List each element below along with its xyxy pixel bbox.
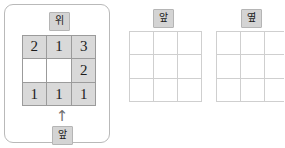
grid-cell[interactable] <box>46 58 72 83</box>
front-view-grid <box>129 31 201 102</box>
grid-cell[interactable] <box>129 78 154 103</box>
grid-cell[interactable] <box>129 54 154 79</box>
label-side-holder: 옆 <box>236 7 266 28</box>
top-view-grid: 2 1 3 2 1 1 1 <box>22 35 96 106</box>
grid-cell[interactable] <box>177 78 202 103</box>
label-side: 옆 <box>241 9 262 28</box>
grid-cell[interactable]: 1 <box>46 35 72 60</box>
grid-cell[interactable] <box>22 58 48 83</box>
grid-cell[interactable] <box>216 31 241 56</box>
grid-cell[interactable] <box>177 54 202 79</box>
label-front: 앞 <box>153 9 174 28</box>
grid-cell[interactable] <box>240 54 265 79</box>
top-view-card: 위 2 1 3 2 1 1 1 ↑ 앞 <box>4 4 110 143</box>
grid-cell[interactable] <box>216 78 241 103</box>
grid-cell[interactable] <box>240 78 265 103</box>
grid-cell[interactable] <box>153 54 178 79</box>
grid-cell[interactable]: 1 <box>22 82 48 107</box>
grid-cell[interactable] <box>264 54 285 79</box>
up-arrow-icon: ↑ <box>5 109 119 124</box>
label-front-holder: 앞 <box>148 7 178 28</box>
grid-cell[interactable]: 1 <box>46 82 72 107</box>
side-view-grid <box>216 31 284 102</box>
grid-cell[interactable] <box>153 31 178 56</box>
grid-cell[interactable]: 1 <box>71 82 97 107</box>
grid-cell[interactable] <box>177 31 202 56</box>
grid-cell[interactable]: 3 <box>71 35 97 60</box>
grid-cell[interactable] <box>129 31 154 56</box>
grid-cell[interactable] <box>264 78 285 103</box>
grid-cell[interactable] <box>153 78 178 103</box>
label-top: 위 <box>49 12 70 31</box>
grid-cell[interactable]: 2 <box>71 58 97 83</box>
label-front-direction: 앞 <box>52 126 73 145</box>
grid-cell[interactable] <box>216 54 241 79</box>
grid-cell[interactable] <box>240 31 265 56</box>
front-direction-indicator: ↑ 앞 <box>5 109 119 145</box>
grid-cell[interactable]: 2 <box>22 35 48 60</box>
grid-cell[interactable] <box>264 31 285 56</box>
